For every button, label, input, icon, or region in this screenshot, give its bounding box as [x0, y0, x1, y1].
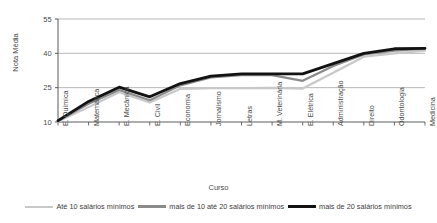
- y-tick-label: 25: [28, 83, 52, 92]
- legend-label: mais de 20 salários mínimos: [319, 203, 411, 210]
- legend-item: Até 10 salários mínimos: [25, 203, 134, 210]
- legend-line-swatch: [25, 206, 53, 208]
- x-tick-label: Letras: [245, 106, 254, 126]
- x-axis-title: Curso: [0, 183, 437, 192]
- legend-label: Até 10 salários mínimos: [56, 203, 134, 210]
- x-tick-label: E. Elétrica: [306, 93, 315, 126]
- x-tick-label: Economia: [183, 94, 192, 126]
- legend-item: mais de 10 até 20 salários mínimos: [138, 203, 284, 210]
- legend-line-swatch: [138, 205, 166, 208]
- y-axis-title: Nota Média: [11, 23, 20, 83]
- x-tick-label: E. Mecânica: [122, 86, 131, 126]
- x-tick-label: Medicina: [428, 97, 437, 126]
- y-tick-label: 55: [28, 15, 52, 24]
- x-tick-label: Matemática: [92, 89, 101, 126]
- y-tick-label: 10: [28, 118, 52, 127]
- legend-line-swatch: [288, 205, 316, 208]
- chart-container: Nota Média 10254055 E. QuímicaMatemática…: [0, 0, 437, 223]
- x-tick-label: E. Química: [61, 90, 70, 126]
- x-tick-label: Odontologia: [397, 87, 406, 126]
- legend-item: mais de 20 salários mínimos: [288, 203, 411, 210]
- y-tick-label: 40: [28, 49, 52, 58]
- x-tick-label: Jornalismo: [214, 91, 223, 126]
- legend-label: mais de 10 até 20 salários mínimos: [169, 203, 284, 210]
- x-tick-label: Administração: [336, 80, 345, 126]
- x-tick-label: M. Veterinária: [275, 82, 284, 126]
- x-tick-label: E. Civil: [153, 104, 162, 126]
- x-tick-label: Direito: [367, 105, 376, 126]
- chart-legend: Até 10 salários mínimosmais de 10 até 20…: [0, 203, 437, 210]
